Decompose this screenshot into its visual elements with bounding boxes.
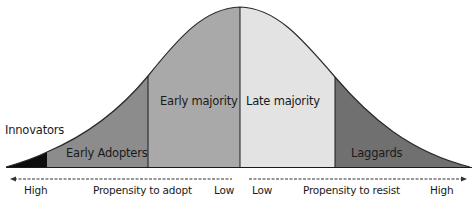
resist-low-label: Low xyxy=(252,184,272,196)
resist-axis-title: Propensity to resist xyxy=(303,184,400,196)
adopt-low-label: Low xyxy=(214,184,234,196)
arrow-left-icon xyxy=(10,177,16,182)
resist-high-label: High xyxy=(430,184,453,196)
label-early-majority: Early majority xyxy=(160,94,238,108)
label-early-adopters: Early Adopters xyxy=(66,146,148,160)
segment-early-majority xyxy=(148,7,240,167)
adopt-high-label: High xyxy=(24,184,47,196)
label-innovators: Innovators xyxy=(5,123,64,137)
label-laggards: Laggards xyxy=(351,146,402,160)
segment-late-majority xyxy=(240,7,335,167)
label-late-majority: Late majority xyxy=(246,94,320,108)
arrow-right-icon xyxy=(461,177,467,182)
adopt-axis-title: Propensity to adopt xyxy=(93,184,192,196)
bell-curve-diagram xyxy=(0,0,476,203)
